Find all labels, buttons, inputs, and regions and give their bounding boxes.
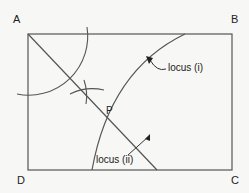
- locus-ii-label: locus (ii): [96, 155, 133, 165]
- locus-ii-line: [28, 34, 157, 170]
- rectangle-abcd: [28, 34, 232, 170]
- locus-i-label: locus (i): [168, 63, 203, 73]
- vertex-label-d: D: [17, 175, 25, 186]
- construction-arc-cross-2: [84, 80, 87, 104]
- locus-ii-arrowhead: [145, 134, 150, 141]
- point-p-label: P: [106, 106, 113, 116]
- locus-i-pointer: [150, 60, 166, 70]
- vertex-label-b: B: [231, 14, 238, 25]
- vertex-label-c: C: [231, 175, 239, 186]
- locus-ii-pointer: [128, 137, 148, 155]
- vertex-label-a: A: [13, 14, 20, 25]
- locus-i-arc: [92, 34, 185, 170]
